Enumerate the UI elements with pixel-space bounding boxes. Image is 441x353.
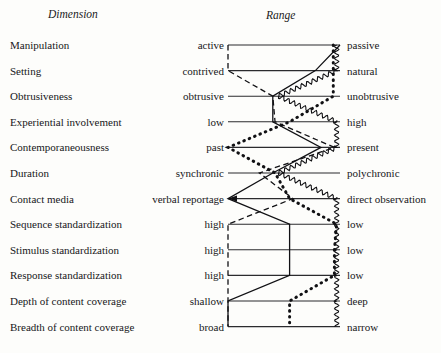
dimension-label: Obtrusiveness [10,90,72,102]
series-lines-group [228,45,340,327]
left-pole-label: high [108,244,224,256]
left-pole-label: verbal reportage [108,193,224,205]
left-pole-label: active [108,39,224,51]
figure-canvas: Dimension Range Manipulationactivepassiv… [0,0,441,353]
right-pole-label: low [347,269,364,281]
right-pole-label: natural [347,65,378,77]
dimension-label: Experiential involvement [10,116,122,128]
left-pole-label: past [108,141,224,153]
right-pole-label: deep [347,295,368,307]
left-pole-label: synchronic [108,167,224,179]
dimension-label: Stimulus standardization [10,244,119,256]
left-pole-label: obtrusive [108,90,224,102]
right-pole-label: unobtrusive [347,90,399,102]
right-pole-label: polychronic [347,167,400,179]
dimension-label: Setting [10,65,41,77]
left-pole-label: high [108,269,224,281]
left-pole-label: contrived [108,65,224,77]
dimension-label: Contemporaneousness [10,141,109,153]
right-pole-label: low [347,218,364,230]
series-line-dotted-profile [228,45,337,327]
right-pole-label: narrow [347,321,378,333]
right-pole-label: passive [347,39,379,51]
left-pole-label: low [108,116,224,128]
dimension-label: Response standardization [10,269,122,281]
left-pole-label: broad [108,321,224,333]
right-pole-label: high [347,116,367,128]
right-pole-label: present [347,141,379,153]
right-pole-label: direct observation [347,193,426,205]
dimension-label: Sequence standardization [10,218,122,230]
left-pole-label: shallow [108,295,224,307]
dimension-label: Contact media [10,193,74,205]
series-line-dashed-profile [228,45,334,327]
dimension-label: Manipulation [10,39,69,51]
dimension-label: Duration [10,167,49,179]
left-pole-label: high [108,218,224,230]
right-pole-label: low [347,244,364,256]
